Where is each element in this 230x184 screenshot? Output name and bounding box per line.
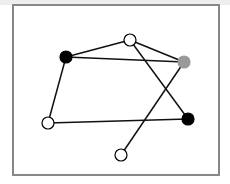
edge-n3-n6	[121, 62, 184, 155]
diagram-frame	[13, 5, 219, 175]
node-white-n2	[124, 34, 136, 46]
nodes-group	[42, 34, 194, 161]
edge-n1-n2	[66, 40, 130, 57]
node-black-n4	[182, 113, 194, 125]
node-white-n5	[42, 117, 54, 129]
edge-n1-n3	[66, 57, 184, 62]
graph-diagram	[0, 0, 230, 184]
node-black-n1	[60, 51, 72, 63]
edge-n5-n4	[48, 119, 188, 123]
edge-n1-n5	[48, 57, 66, 123]
node-white-n6	[115, 149, 127, 161]
node-gray-n3	[178, 56, 190, 68]
